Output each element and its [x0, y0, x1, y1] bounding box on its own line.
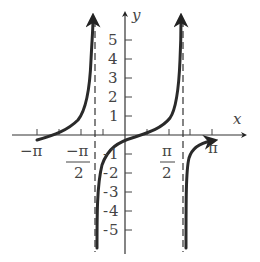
x-label-pi-half-den: 2	[162, 164, 172, 182]
x-label-neg-pi-half-den: 2	[74, 164, 84, 182]
svg-text:-: -	[103, 221, 108, 239]
x-label-pi-half-num: π	[162, 142, 172, 160]
y-label-neg-3: 3	[109, 183, 119, 201]
y-label-4: 4	[108, 50, 118, 68]
y-label-neg-1: 1	[109, 145, 119, 163]
tangent-graph: x y −π −π 2 π 2 π 5 4 3 2 1 - 1 - 2 - 3 …	[0, 0, 260, 262]
y-axis-label: y	[131, 6, 141, 24]
x-label-neg-pi: −π	[20, 142, 43, 160]
y-label-neg-4: 4	[109, 202, 119, 220]
curve-left-branch	[37, 20, 93, 140]
y-label-1: 1	[109, 107, 119, 125]
y-label-neg-5: 5	[109, 221, 119, 239]
svg-text:-: -	[103, 145, 108, 163]
y-labels-negative: - 1 - 2 - 3 - 4 - 5	[103, 145, 119, 239]
y-label-neg-2: 2	[109, 164, 119, 182]
svg-text:-: -	[103, 164, 108, 182]
y-label-2: 2	[108, 88, 118, 106]
x-label-neg-pi-half-num: −π	[66, 142, 89, 160]
y-label-3: 3	[108, 69, 118, 87]
x-axis-label: x	[233, 110, 242, 128]
y-label-5: 5	[108, 31, 118, 49]
svg-text:-: -	[103, 202, 108, 220]
svg-text:-: -	[103, 183, 108, 201]
curve-right-branch	[186, 141, 211, 248]
x-label-pi: π	[208, 139, 218, 157]
